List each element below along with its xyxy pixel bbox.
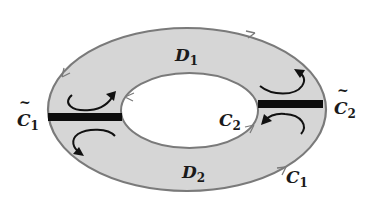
label-c2-tilde: C2	[334, 98, 356, 121]
cut-bar-right	[258, 100, 323, 108]
inner-boundary-c2	[121, 73, 258, 148]
annulus-diagram: D1 D2 C2 C1 ~ C1 ~ C2	[0, 0, 376, 199]
cut-bar-left	[48, 113, 122, 121]
label-c1-tilde: C1	[17, 110, 39, 133]
label-c2-tilde-accent: ~	[337, 82, 349, 98]
label-c1-tilde-accent: ~	[19, 94, 31, 110]
label-c1: C1	[286, 167, 308, 190]
